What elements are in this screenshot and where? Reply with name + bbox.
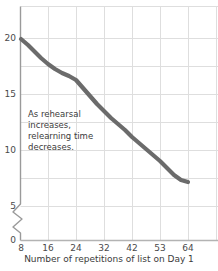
x-tick-label-8: 8	[11, 243, 31, 253]
x-tick-label-64: 64	[178, 243, 198, 253]
x-tick-label-16: 16	[38, 243, 58, 253]
x-axis-title: Number of repetitions of list on Day 1	[0, 254, 218, 264]
x-tick-label-53: 53	[150, 243, 170, 253]
x-tick-label-42: 42	[122, 243, 142, 253]
x-tick-label-24: 24	[66, 243, 86, 253]
x-tick-label-32: 32	[94, 243, 114, 253]
y-tick-label-10: 10	[0, 145, 16, 155]
chart-annotation-text: As rehearsal increases, relearning time …	[28, 109, 106, 153]
y-tick-label-5: 5	[0, 201, 16, 211]
y-tick-label-15: 15	[0, 89, 16, 99]
chart-container: 20 15 10 5 0 8 16 24 32 42 53 64 As rehe…	[0, 0, 218, 271]
y-tick-label-20: 20	[0, 33, 16, 43]
